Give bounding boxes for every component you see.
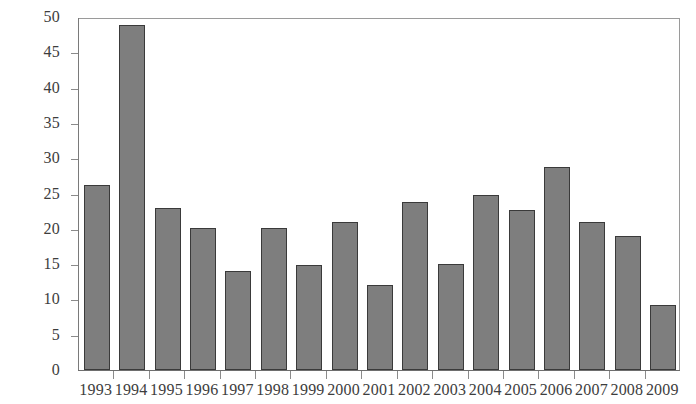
x-tick-label-1994: 1994 [113, 379, 148, 401]
x-tick-mark [538, 371, 539, 379]
x-tick-mark [149, 371, 150, 379]
x-tick-mark [397, 371, 398, 379]
x-tick-label-1999: 1999 [290, 379, 325, 401]
x-tick-label-1997: 1997 [220, 379, 255, 401]
x-axis-line [78, 370, 680, 371]
x-tick-mark [503, 371, 504, 379]
x-tick-label-1996: 1996 [184, 379, 219, 401]
bar-chart: 05101520253035404550 1993199419951996199… [0, 0, 696, 404]
bar-2005[interactable] [509, 210, 535, 370]
bar-2009[interactable] [650, 305, 676, 370]
y-tick-label: 0 [52, 360, 60, 380]
x-tick-label-2000: 2000 [326, 379, 361, 401]
x-tick-label-2007: 2007 [574, 379, 609, 401]
x-tick-label-2002: 2002 [397, 379, 432, 401]
x-tick-mark [574, 371, 575, 379]
bar-2006[interactable] [544, 167, 570, 370]
bar-1998[interactable] [261, 228, 287, 370]
bar-1996[interactable] [190, 228, 216, 370]
y-tick-label: 45 [44, 42, 60, 62]
bar-2007[interactable] [579, 222, 605, 370]
x-tick-label-2005: 2005 [503, 379, 538, 401]
bar-1995[interactable] [155, 208, 181, 370]
bar-2001[interactable] [367, 285, 393, 370]
x-tick-label-2009: 2009 [645, 379, 680, 401]
y-tick-label: 25 [44, 184, 60, 204]
x-tick-mark [290, 371, 291, 379]
x-tick-mark [609, 371, 610, 379]
x-tick-mark [220, 371, 221, 379]
y-tick-label: 35 [44, 113, 60, 133]
bar-1997[interactable] [225, 271, 251, 370]
x-tick-label-1993: 1993 [78, 379, 113, 401]
x-tick-mark [184, 371, 185, 379]
y-tick-label: 10 [44, 289, 60, 309]
bar-1994[interactable] [119, 25, 145, 370]
y-tick-label: 50 [44, 7, 60, 27]
bar-2002[interactable] [402, 202, 428, 370]
y-tick-label: 40 [44, 78, 60, 98]
x-tick-mark [361, 371, 362, 379]
x-tick-label-1998: 1998 [255, 379, 290, 401]
x-tick-mark [255, 371, 256, 379]
x-tick-mark [326, 371, 327, 379]
x-tick-label-1995: 1995 [149, 379, 184, 401]
y-tick-label: 15 [44, 254, 60, 274]
x-tick-label-2006: 2006 [538, 379, 573, 401]
bar-1999[interactable] [296, 265, 322, 370]
bar-2008[interactable] [615, 236, 641, 370]
x-tick-mark [113, 371, 114, 379]
bar-2003[interactable] [438, 264, 464, 370]
y-axis-line [78, 18, 79, 371]
y-tick-label: 5 [52, 325, 60, 345]
x-tick-mark [432, 371, 433, 379]
bar-2000[interactable] [332, 222, 358, 370]
x-tick-mark [468, 371, 469, 379]
x-tick-label-2008: 2008 [609, 379, 644, 401]
y-tick-label: 20 [44, 219, 60, 239]
x-tick-label-2003: 2003 [432, 379, 467, 401]
bar-1993[interactable] [84, 185, 110, 370]
x-tick-label-2001: 2001 [361, 379, 396, 401]
x-tick-mark [645, 371, 646, 379]
x-tick-label-2004: 2004 [468, 379, 503, 401]
y-tick-label: 30 [44, 148, 60, 168]
plot-area [78, 18, 680, 371]
bar-2004[interactable] [473, 195, 499, 370]
